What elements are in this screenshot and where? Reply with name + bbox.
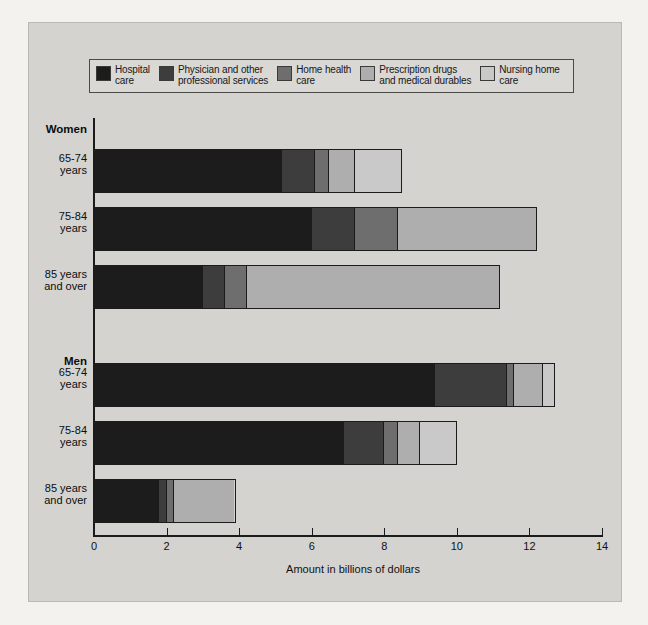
x-axis-tick <box>167 528 168 536</box>
legend-item-label: Hospital care <box>115 65 150 86</box>
bar-segment <box>282 150 314 192</box>
x-axis-tick-label: 12 <box>523 540 535 552</box>
bar-segment <box>95 150 282 192</box>
legend-swatch-icon <box>480 66 495 81</box>
legend-item: Nursing home care <box>480 65 559 86</box>
category-label: 75-84 years <box>29 424 87 448</box>
x-axis-title: Amount in billions of dollars <box>29 563 648 575</box>
legend-item-label: Physician and other professional service… <box>178 65 268 86</box>
x-axis-tick-label: 14 <box>596 540 608 552</box>
legend-item: Hospital care <box>96 65 150 86</box>
legend-item-label: Prescription drugs and medical durables <box>379 65 471 86</box>
x-axis-tick <box>312 528 313 536</box>
x-axis-tick <box>602 528 603 536</box>
category-label: 85 years and over <box>29 482 87 506</box>
x-axis-tick-label: 0 <box>91 540 97 552</box>
x-axis-tick <box>457 528 458 536</box>
bar-segment <box>95 422 344 464</box>
bar-segment <box>225 266 247 308</box>
x-axis-tick-label: 4 <box>236 540 242 552</box>
group-label-women: Women <box>29 123 87 135</box>
x-axis-tick-label: 6 <box>309 540 315 552</box>
stacked-bar <box>94 207 537 251</box>
legend-swatch-icon <box>96 66 111 81</box>
bar-segment <box>95 208 312 250</box>
stacked-bar <box>94 265 500 309</box>
x-axis-line <box>94 535 603 537</box>
bar-segment <box>95 266 203 308</box>
x-axis-tick <box>529 528 530 536</box>
category-label: 75-84 years <box>29 210 87 234</box>
bar-segment <box>203 266 225 308</box>
stacked-bar <box>94 363 555 407</box>
bar-segment <box>398 422 420 464</box>
bar-segment <box>355 208 398 250</box>
legend-item: Home health care <box>277 65 351 86</box>
chart-figure: Hospital carePhysician and other profess… <box>28 22 622 602</box>
bar-segment <box>315 150 329 192</box>
bar-segment <box>247 266 500 308</box>
bar-segment <box>167 480 174 522</box>
legend-item: Prescription drugs and medical durables <box>360 65 471 86</box>
bar-segment <box>329 150 354 192</box>
category-label: 65-74 years <box>29 152 87 176</box>
chart-legend: Hospital carePhysician and other profess… <box>89 59 574 93</box>
category-label: 65-74 years <box>29 366 87 390</box>
bar-segment <box>420 422 456 464</box>
bar-segment <box>543 364 554 406</box>
x-axis-tick <box>94 528 95 536</box>
x-axis-tick <box>384 528 385 536</box>
legend-item: Physician and other professional service… <box>159 65 268 86</box>
bar-segment <box>355 150 402 192</box>
bar-segment <box>344 422 384 464</box>
legend-swatch-icon <box>360 66 375 81</box>
x-axis-tick-label: 10 <box>451 540 463 552</box>
bar-segment <box>398 208 535 250</box>
bar-segment <box>514 364 543 406</box>
stacked-bar <box>94 149 402 193</box>
stacked-bar <box>94 479 236 523</box>
x-axis-tick-label: 8 <box>381 540 387 552</box>
bar-segment <box>312 208 355 250</box>
bar-segment <box>159 480 166 522</box>
bar-segment <box>384 422 398 464</box>
bar-segment <box>95 364 435 406</box>
bar-segment <box>435 364 507 406</box>
legend-swatch-icon <box>277 66 292 81</box>
legend-swatch-icon <box>159 66 174 81</box>
legend-item-label: Home health care <box>296 65 351 86</box>
legend-item-label: Nursing home care <box>499 65 559 86</box>
x-axis-tick <box>239 528 240 536</box>
stacked-bar <box>94 421 457 465</box>
y-axis-labels: Women65-74 years75-84 years85 years and … <box>29 118 87 535</box>
bar-segment <box>507 364 514 406</box>
bar-segment <box>174 480 235 522</box>
bar-segment <box>95 480 159 522</box>
x-axis-tick-label: 2 <box>164 540 170 552</box>
category-label: 85 years and over <box>29 268 87 292</box>
